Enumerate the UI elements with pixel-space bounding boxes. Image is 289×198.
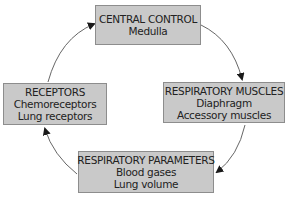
node-line: Accessory muscles bbox=[177, 109, 271, 121]
node-line: Diaphragm bbox=[196, 97, 252, 109]
node-receptors: RECEPTORS Chemoreceptors Lung receptors bbox=[3, 83, 107, 125]
node-title: RESPIRATORY PARAMETERS bbox=[77, 154, 214, 166]
arrow-receptors-to-central bbox=[48, 24, 94, 82]
node-line: Blood gases bbox=[116, 166, 176, 178]
arrow-central-to-muscles bbox=[201, 25, 242, 79]
node-line: Medulla bbox=[128, 25, 167, 37]
node-central-control: CENTRAL CONTROL Medulla bbox=[95, 5, 201, 45]
node-title: CENTRAL CONTROL bbox=[99, 13, 197, 25]
node-respiratory-muscles: RESPIRATORY MUSCLES Diaphragm Accessory … bbox=[163, 82, 285, 123]
node-respiratory-parameters: RESPIRATORY PARAMETERS Blood gases Lung … bbox=[78, 151, 214, 193]
node-line: Chemoreceptors bbox=[14, 98, 97, 110]
node-title: RECEPTORS bbox=[25, 86, 85, 98]
respiratory-control-cycle-diagram: CENTRAL CONTROL Medulla RESPIRATORY MUSC… bbox=[0, 0, 289, 198]
arrow-params-to-receptors bbox=[45, 129, 77, 174]
node-title: RESPIRATORY MUSCLES bbox=[165, 85, 284, 97]
node-line: Lung receptors bbox=[18, 110, 93, 122]
arrow-muscles-to-params bbox=[217, 125, 245, 172]
node-line: Lung volume bbox=[114, 178, 179, 190]
